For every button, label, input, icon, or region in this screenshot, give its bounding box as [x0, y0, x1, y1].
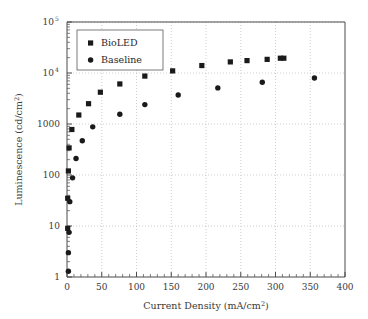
data-point-square — [76, 112, 81, 117]
y-axis-title: Luminescence (cd/cm2) — [13, 93, 24, 206]
data-point-square — [117, 81, 122, 86]
data-point-circle — [117, 112, 122, 117]
data-point-circle — [66, 250, 71, 255]
legend-marker-circle — [88, 57, 93, 62]
series-bioled — [65, 56, 286, 231]
data-point-square — [142, 73, 147, 78]
data-point-square — [66, 168, 71, 173]
x-axis-title: Current Density (mA/cm2) — [143, 300, 269, 311]
data-point-circle — [260, 80, 265, 85]
y-tick-label-exponent: 5 — [55, 15, 59, 22]
legend-label: Baseline — [101, 54, 142, 65]
y-tick-label: 10 — [49, 221, 61, 231]
data-point-square — [199, 63, 204, 68]
y-tick-label: 10 — [43, 17, 55, 27]
data-point-square — [98, 90, 103, 95]
data-point-square — [281, 56, 286, 61]
data-point-circle — [312, 75, 317, 80]
data-point-circle — [176, 92, 181, 97]
x-tick-label: 100 — [128, 282, 145, 292]
legend: BioLEDBaseline — [77, 30, 163, 70]
data-point-square — [66, 145, 71, 150]
data-point-square — [86, 101, 91, 106]
data-point-circle — [90, 124, 95, 129]
data-point-circle — [142, 102, 147, 107]
figure-container: 0501001502002503003504001101001000104105… — [0, 0, 368, 319]
x-tick-label: 0 — [64, 282, 70, 292]
data-point-square — [265, 57, 270, 62]
data-point-square — [69, 127, 74, 132]
x-tick-label: 350 — [302, 282, 319, 292]
data-point-circle — [66, 230, 71, 235]
data-point-circle — [70, 175, 75, 180]
x-tick-label: 400 — [336, 282, 353, 292]
x-tick-label: 50 — [96, 282, 108, 292]
x-tick-label: 250 — [232, 282, 249, 292]
y-tick-label: 1 — [54, 272, 60, 282]
y-tick-label: 1000 — [37, 119, 60, 129]
data-point-square — [228, 59, 233, 64]
y-tick-label: 10 — [43, 68, 55, 78]
data-point-circle — [215, 85, 220, 90]
data-point-circle — [80, 138, 85, 143]
data-point-circle — [67, 199, 72, 204]
data-point-circle — [66, 268, 71, 273]
y-tick-label-exponent: 4 — [55, 66, 59, 73]
x-tick-label: 300 — [267, 282, 284, 292]
x-axis-ticks: 050100150200250300350400 — [64, 272, 354, 292]
y-tick-label: 100 — [43, 170, 60, 180]
legend-label: BioLED — [101, 37, 138, 48]
series-baseline — [66, 75, 317, 274]
x-tick-label: 150 — [163, 282, 180, 292]
legend-marker-square — [88, 40, 93, 45]
data-point-square — [170, 68, 175, 73]
x-tick-label: 200 — [197, 282, 214, 292]
data-point-square — [244, 58, 249, 63]
luminescence-vs-current-density-chart: 0501001502002503003504001101001000104105… — [0, 0, 368, 319]
data-point-circle — [73, 156, 78, 161]
